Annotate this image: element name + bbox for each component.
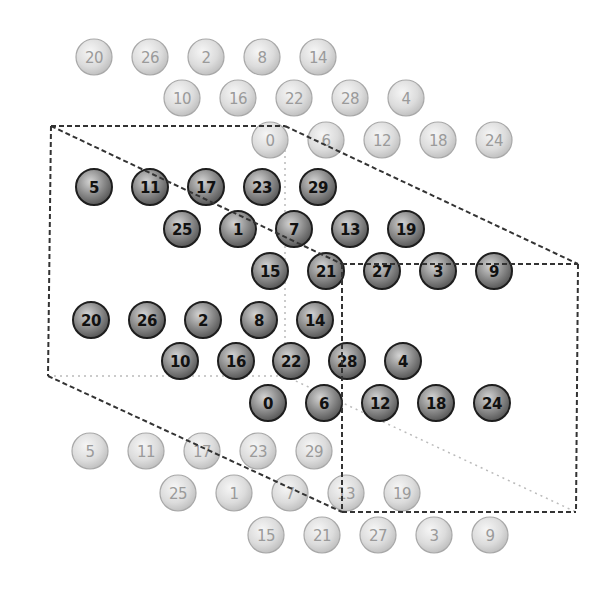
sphere: 25 bbox=[160, 475, 196, 511]
sphere: 23 bbox=[244, 169, 280, 205]
sphere: 1 bbox=[216, 475, 252, 511]
sphere: 10 bbox=[162, 343, 198, 379]
sphere-label: 15 bbox=[257, 527, 275, 545]
sphere-label: 23 bbox=[252, 179, 272, 197]
sphere: 4 bbox=[385, 343, 421, 379]
sphere-label: 12 bbox=[370, 395, 390, 413]
sphere: 22 bbox=[273, 343, 309, 379]
sphere: 24 bbox=[476, 122, 512, 158]
sphere: 4 bbox=[388, 80, 424, 116]
sphere-label: 14 bbox=[305, 312, 325, 330]
sphere-label: 9 bbox=[485, 527, 494, 545]
sphere-lattice: 2026281410162228406121824511172329251713… bbox=[72, 39, 512, 553]
sphere: 0 bbox=[250, 385, 286, 421]
sphere: 28 bbox=[332, 80, 368, 116]
sphere: 16 bbox=[220, 80, 256, 116]
sphere: 29 bbox=[296, 433, 332, 469]
sphere-label: 27 bbox=[372, 263, 392, 281]
sphere: 25 bbox=[164, 211, 200, 247]
sphere-label: 24 bbox=[485, 132, 503, 150]
sphere: 18 bbox=[420, 122, 456, 158]
sphere: 8 bbox=[241, 302, 277, 338]
sphere: 13 bbox=[328, 475, 364, 511]
sphere: 11 bbox=[128, 433, 164, 469]
sphere: 8 bbox=[244, 39, 280, 75]
sphere: 19 bbox=[384, 475, 420, 511]
sphere-label: 7 bbox=[289, 221, 299, 239]
sphere-label: 2 bbox=[201, 49, 210, 67]
sphere: 21 bbox=[304, 517, 340, 553]
sphere-label: 4 bbox=[401, 90, 410, 108]
sphere: 3 bbox=[420, 253, 456, 289]
box-edge bbox=[48, 126, 51, 376]
sphere-label: 18 bbox=[426, 395, 446, 413]
sphere: 6 bbox=[308, 122, 344, 158]
sphere-label: 9 bbox=[489, 263, 499, 281]
sphere-label: 11 bbox=[137, 443, 155, 461]
sphere-label: 27 bbox=[369, 527, 387, 545]
sphere: 9 bbox=[476, 253, 512, 289]
sphere-label: 8 bbox=[257, 49, 266, 67]
sphere: 13 bbox=[332, 211, 368, 247]
sphere-label: 28 bbox=[341, 90, 359, 108]
sphere-label: 21 bbox=[313, 527, 331, 545]
sphere: 3 bbox=[416, 517, 452, 553]
sphere: 18 bbox=[418, 385, 454, 421]
sphere-label: 1 bbox=[233, 221, 243, 239]
sphere-label: 14 bbox=[309, 49, 327, 67]
sphere-label: 17 bbox=[193, 443, 211, 461]
sphere-label: 17 bbox=[196, 179, 216, 197]
supercell-diagram: 2026281410162228406121824511172329251713… bbox=[0, 0, 614, 590]
sphere: 26 bbox=[132, 39, 168, 75]
sphere-label: 26 bbox=[137, 312, 157, 330]
sphere-label: 6 bbox=[319, 395, 329, 413]
sphere-label: 22 bbox=[285, 90, 303, 108]
sphere: 26 bbox=[129, 302, 165, 338]
sphere: 2 bbox=[185, 302, 221, 338]
sphere-label: 8 bbox=[254, 312, 264, 330]
sphere-label: 26 bbox=[141, 49, 159, 67]
sphere-label: 5 bbox=[85, 443, 94, 461]
sphere: 28 bbox=[329, 343, 365, 379]
sphere-label: 25 bbox=[169, 485, 187, 503]
sphere: 19 bbox=[388, 211, 424, 247]
sphere-label: 28 bbox=[337, 353, 357, 371]
sphere: 14 bbox=[300, 39, 336, 75]
sphere: 27 bbox=[364, 253, 400, 289]
sphere-label: 16 bbox=[229, 90, 247, 108]
sphere-label: 4 bbox=[398, 353, 408, 371]
sphere: 9 bbox=[472, 517, 508, 553]
box-edge bbox=[576, 264, 578, 512]
sphere: 12 bbox=[364, 122, 400, 158]
sphere: 7 bbox=[276, 211, 312, 247]
sphere-label: 3 bbox=[433, 263, 443, 281]
sphere: 17 bbox=[184, 433, 220, 469]
sphere: 0 bbox=[252, 122, 288, 158]
sphere: 27 bbox=[360, 517, 396, 553]
sphere-label: 1 bbox=[229, 485, 238, 503]
sphere-label: 10 bbox=[173, 90, 191, 108]
sphere-label: 11 bbox=[140, 179, 160, 197]
sphere-label: 3 bbox=[429, 527, 438, 545]
sphere-label: 29 bbox=[305, 443, 323, 461]
sphere: 15 bbox=[248, 517, 284, 553]
sphere-label: 25 bbox=[172, 221, 192, 239]
sphere-label: 19 bbox=[396, 221, 416, 239]
sphere: 10 bbox=[164, 80, 200, 116]
sphere-label: 21 bbox=[316, 263, 336, 281]
sphere-label: 13 bbox=[340, 221, 360, 239]
sphere-label: 29 bbox=[308, 179, 328, 197]
sphere-label: 16 bbox=[226, 353, 246, 371]
sphere: 6 bbox=[306, 385, 342, 421]
sphere: 5 bbox=[72, 433, 108, 469]
sphere: 11 bbox=[132, 169, 168, 205]
sphere: 23 bbox=[240, 433, 276, 469]
sphere: 16 bbox=[218, 343, 254, 379]
sphere-label: 0 bbox=[265, 132, 274, 150]
sphere-label: 20 bbox=[85, 49, 103, 67]
sphere: 29 bbox=[300, 169, 336, 205]
sphere-label: 12 bbox=[373, 132, 391, 150]
sphere: 15 bbox=[252, 253, 288, 289]
sphere: 24 bbox=[474, 385, 510, 421]
sphere: 21 bbox=[308, 253, 344, 289]
